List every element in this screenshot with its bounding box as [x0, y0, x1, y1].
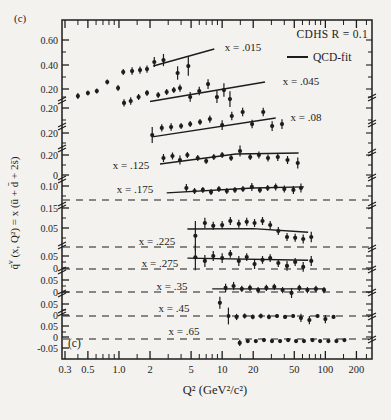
data-point: [301, 265, 305, 269]
data-point: [222, 88, 226, 92]
data-point: [188, 122, 192, 126]
y-tick-label: 0.05: [41, 251, 59, 262]
data-point: [275, 314, 279, 318]
data-point: [231, 284, 235, 288]
data-point: [116, 86, 120, 90]
data-point: [282, 187, 286, 191]
data-point: [206, 82, 210, 86]
data-point: [260, 258, 264, 262]
data-point: [204, 159, 208, 163]
data-point: [257, 153, 261, 157]
data-point: [201, 188, 205, 192]
series-label: x = .35: [157, 280, 188, 292]
x-tick-label: 1.0: [112, 364, 125, 375]
y-tick-label: 0.05: [41, 321, 59, 332]
data-point: [220, 256, 224, 260]
qcd-fit-line: [153, 49, 214, 66]
panel-label-top: (c): [14, 12, 26, 24]
data-point: [280, 122, 284, 126]
x-tick-label: 0.5: [81, 364, 94, 375]
data-point: [228, 97, 232, 101]
data-point: [291, 188, 295, 192]
data-point: [211, 254, 215, 258]
data-point: [278, 339, 282, 343]
y-tick-label: 0.15: [41, 203, 59, 214]
data-point: [285, 264, 289, 268]
data-point: [129, 99, 133, 103]
data-point: [299, 316, 303, 320]
y-title-superscript: ν: [6, 260, 15, 264]
data-point: [267, 315, 271, 319]
series-label: x = .125: [113, 159, 150, 171]
data-point: [274, 185, 278, 189]
data-point: [105, 80, 109, 84]
data-point: [264, 286, 268, 290]
data-point: [256, 288, 260, 292]
data-point: [297, 286, 301, 290]
data-point: [178, 158, 182, 162]
data-point: [241, 110, 245, 114]
fit-line-sample-icon: [287, 56, 308, 58]
y-tick-label: 0.40: [41, 60, 59, 71]
data-point: [285, 158, 289, 162]
x-tick-label: 2: [147, 364, 152, 375]
data-point: [224, 286, 228, 290]
y-tick-label: 0.05: [41, 223, 59, 234]
data-point: [238, 149, 242, 153]
series-label: x = .45: [159, 302, 190, 314]
data-point: [208, 117, 212, 121]
data-point: [248, 155, 252, 159]
data-point: [276, 155, 280, 159]
series-label: x = .015: [225, 41, 262, 53]
data-point: [262, 338, 266, 342]
data-point: [252, 262, 256, 266]
y-tick-label: 0.10: [41, 181, 59, 192]
data-point: [95, 89, 99, 93]
data-point: [243, 314, 247, 318]
data-point: [161, 156, 165, 160]
data-point: [251, 315, 255, 319]
data-point: [212, 155, 216, 159]
data-point: [76, 94, 80, 98]
data-point: [150, 133, 154, 137]
data-point: [268, 223, 272, 227]
data-point: [259, 314, 263, 318]
x-tick-label: 50: [289, 364, 300, 375]
data-point: [252, 221, 256, 225]
legend-fit-label: QCD-fit: [313, 51, 351, 63]
data-point: [246, 339, 250, 343]
x-tick-label: 5: [188, 364, 193, 375]
data-point: [260, 219, 264, 223]
data-point: [276, 229, 280, 233]
data-point: [310, 338, 314, 342]
data-point: [138, 68, 142, 72]
data-point: [301, 237, 305, 241]
data-point: [220, 123, 224, 127]
data-point: [156, 93, 160, 97]
x-tick-label: 200: [349, 364, 365, 375]
data-point: [289, 291, 293, 295]
data-point: [179, 124, 183, 128]
y-tick-label: 0.20: [41, 84, 59, 95]
y-tick-label: 0.60: [41, 35, 59, 46]
data-point: [250, 122, 254, 126]
data-point: [196, 156, 200, 160]
data-point: [299, 186, 303, 190]
y-tick-label: 0.20: [41, 103, 59, 114]
data-point: [248, 286, 252, 290]
y-tick-label: 0.05: [41, 275, 59, 286]
data-point: [203, 221, 207, 225]
data-point: [169, 125, 173, 129]
data-point: [122, 101, 126, 105]
data-point: [283, 315, 287, 319]
data-point: [318, 339, 322, 343]
data-point: [237, 259, 241, 263]
data-point: [240, 287, 244, 291]
x-tick-label: 0.3: [58, 364, 71, 375]
panel-label-inner: (c): [68, 337, 81, 349]
data-point: [203, 259, 207, 263]
data-point: [270, 339, 274, 343]
data-point: [238, 341, 242, 345]
data-point: [322, 288, 326, 292]
data-point: [184, 186, 188, 190]
